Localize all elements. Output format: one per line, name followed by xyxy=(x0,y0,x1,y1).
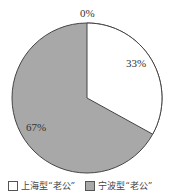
label-zero: 0% xyxy=(80,7,95,19)
label-ningbo: 67% xyxy=(26,121,46,133)
legend-item-ningbo: 宁波型“老公” xyxy=(85,179,152,192)
swatch-white xyxy=(8,181,18,191)
label-shanghai: 33% xyxy=(126,57,146,69)
legend-label-ningbo: 宁波型“老公” xyxy=(98,179,152,192)
pie-chart xyxy=(0,0,171,175)
legend: 上海型“老公” 宁波型“老公” xyxy=(8,179,162,192)
swatch-gray xyxy=(85,181,95,191)
legend-label-shanghai: 上海型“老公” xyxy=(21,179,75,192)
legend-item-shanghai: 上海型“老公” xyxy=(8,179,75,192)
